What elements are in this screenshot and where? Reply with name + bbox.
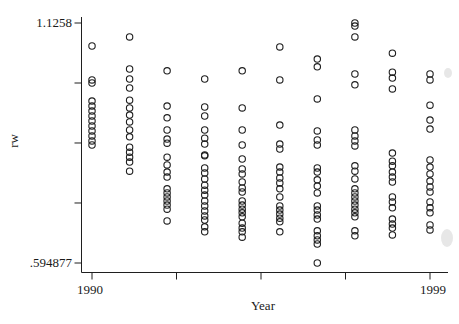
- data-point-marker: [126, 34, 132, 40]
- x-axis-title: Year: [251, 298, 276, 313]
- data-point-marker: [314, 56, 320, 62]
- data-point-marker: [202, 104, 208, 110]
- data-point-marker: [277, 44, 283, 50]
- data-point-marker: [427, 171, 433, 177]
- data-point-marker: [314, 190, 320, 196]
- data-point-marker: [352, 214, 358, 220]
- data-point-marker: [389, 232, 395, 238]
- data-point-marker: [389, 86, 395, 92]
- data-point-marker: [164, 154, 170, 160]
- data-point-marker: [164, 218, 170, 224]
- data-point-marker: [277, 122, 283, 128]
- data-point-marker: [239, 142, 245, 148]
- data-point-marker: [126, 127, 132, 133]
- data-point-marker: [126, 119, 132, 125]
- data-point-marker: [314, 128, 320, 134]
- data-point-marker: [352, 176, 358, 182]
- data-point-marker: [126, 134, 132, 140]
- y-axis-max-tick-label: 1.1258: [36, 15, 72, 30]
- data-point-marker: [126, 105, 132, 111]
- data-point-marker: [239, 189, 245, 195]
- axes: [82, 17, 449, 273]
- data-point-marker: [314, 260, 320, 266]
- data-point-marker: [126, 97, 132, 103]
- data-point-marker: [164, 127, 170, 133]
- data-point-marker: [352, 71, 358, 77]
- data-point-marker: [239, 214, 245, 220]
- data-point-marker: [126, 85, 132, 91]
- data-point-marker: [314, 64, 320, 70]
- data-point-marker: [89, 43, 95, 49]
- scatter-plot-figure: 1.1258 .594877 1990 1999 Year rw: [0, 0, 459, 324]
- data-point-marker: [239, 156, 245, 162]
- data-point-marker: [164, 140, 170, 146]
- data-point-marker: [314, 183, 320, 189]
- data-point-marker: [314, 177, 320, 183]
- data-point-marker: [314, 216, 320, 222]
- scan-artifact: [444, 68, 452, 78]
- data-point-marker: [277, 77, 283, 83]
- data-point-marker: [389, 150, 395, 156]
- data-point-marker: [427, 102, 433, 108]
- data-point-marker: [202, 217, 208, 223]
- data-point-marker: [126, 76, 132, 82]
- data-point-marker: [239, 127, 245, 133]
- data-point-marker: [427, 117, 433, 123]
- data-point-marker: [314, 169, 320, 175]
- data-point-marker: [352, 82, 358, 88]
- data-point-marker: [164, 68, 170, 74]
- data-point-marker: [352, 34, 358, 40]
- data-point-marker: [389, 225, 395, 231]
- data-point-marker: [427, 164, 433, 170]
- data-point-marker: [164, 162, 170, 168]
- data-point-marker: [164, 103, 170, 109]
- data-point-marker: [427, 157, 433, 163]
- y-axis-title: rw: [6, 134, 21, 148]
- data-point-marker: [202, 127, 208, 133]
- y-axis-min-tick-label: .594877: [30, 255, 73, 270]
- data-point-marker: [389, 50, 395, 56]
- data-point-marker: [126, 168, 132, 174]
- data-point-marker: [239, 68, 245, 74]
- data-point-marker: [314, 96, 320, 102]
- data-point-marker: [314, 241, 320, 247]
- axis-ticks: [75, 23, 431, 280]
- data-point-marker: [89, 142, 95, 148]
- data-point-marker: [164, 115, 170, 121]
- x-axis-first-tick-label: 1990: [77, 282, 103, 297]
- data-point-marker: [389, 163, 395, 169]
- data-point-marker: [277, 194, 283, 200]
- data-point-marker: [126, 66, 132, 72]
- data-point-marker: [164, 206, 170, 212]
- data-point-marker: [239, 105, 245, 111]
- data-point-marker: [427, 126, 433, 132]
- data-point-marker: [126, 112, 132, 118]
- data-point-marker: [202, 113, 208, 119]
- scan-artifact: [441, 229, 453, 247]
- plot-canvas: 1.1258 .594877 1990 1999 Year rw: [0, 0, 459, 324]
- x-axis-last-tick-label: 1999: [420, 282, 446, 297]
- data-points: [89, 20, 433, 266]
- data-point-marker: [277, 229, 283, 235]
- data-point-marker: [202, 76, 208, 82]
